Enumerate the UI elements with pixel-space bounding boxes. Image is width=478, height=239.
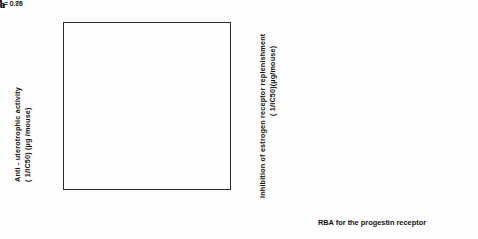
panel-a-ylabel-line1: Anti - uterotrophic activity bbox=[13, 87, 23, 182]
panel-a-plot-frame bbox=[63, 22, 231, 190]
x-axis-title: RBA for the progestin receptor bbox=[318, 218, 426, 227]
panel-b-ylabel-line1: Inhibition of estrogen receptor replenis… bbox=[258, 34, 268, 198]
panel-b-letter: b bbox=[0, 0, 5, 10]
panel-a-ylabel-line2: ( 1/IC50) (µg /mouse) bbox=[23, 107, 33, 182]
panel-b-ylabel-line2: ( 1/IC50)(µg/mouse) bbox=[268, 46, 278, 116]
figure-canvas: Anti - uterotrophic activity ( 1/IC50) (… bbox=[0, 0, 478, 239]
